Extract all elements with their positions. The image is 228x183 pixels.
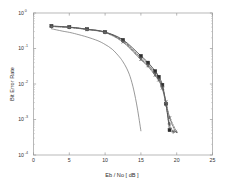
svg-text:10: 10: [18, 45, 24, 51]
y-axis-label: Bit Error Rate: [9, 67, 15, 101]
bit-error-rate-figure: 0510152025 10010-110-210-310-4 Eb / No […: [0, 0, 228, 183]
data-point-marker: [104, 32, 106, 34]
data-point-marker: [154, 75, 156, 77]
data-point-marker: [168, 129, 171, 132]
data-point-marker: [86, 29, 88, 31]
data-point-marker: [122, 41, 124, 43]
x-tick-label: 15: [138, 157, 144, 163]
data-point-marker: [161, 88, 163, 90]
x-tick-label: 0: [32, 157, 35, 163]
figure-background: [0, 0, 228, 183]
ber-chart: 0510152025 10010-110-210-310-4 Eb / No […: [0, 0, 228, 183]
svg-text:10: 10: [18, 152, 24, 158]
data-point-marker: [51, 26, 53, 28]
x-axis-label: Eb / No [ dB ]: [105, 172, 139, 178]
data-point-marker: [176, 131, 178, 133]
svg-text:10: 10: [18, 116, 24, 122]
svg-text:10: 10: [18, 81, 24, 87]
data-point-marker: [147, 66, 149, 68]
svg-text:0: 0: [25, 9, 27, 13]
svg-text:-4: -4: [25, 151, 28, 155]
svg-text:-3: -3: [25, 115, 28, 119]
data-point-marker: [68, 27, 70, 29]
x-tick-label: 5: [68, 157, 71, 163]
data-point-marker: [140, 59, 142, 61]
svg-text:-1: -1: [25, 44, 28, 48]
data-point-marker: [158, 80, 160, 82]
x-tick-label: 20: [174, 157, 180, 163]
data-point-marker: [169, 116, 171, 118]
data-point-marker: [165, 102, 167, 104]
svg-text:10: 10: [18, 10, 24, 16]
svg-text:-2: -2: [25, 80, 28, 84]
x-tick-label: 10: [102, 157, 108, 163]
x-tick-label: 25: [210, 157, 216, 163]
